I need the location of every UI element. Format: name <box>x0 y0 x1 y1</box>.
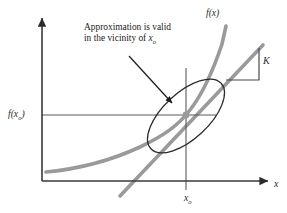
slope-label-k: K <box>263 55 270 67</box>
y-axis-value-label-f-x0: f(xo) <box>8 108 25 121</box>
annotation-text: Approximation is valid in the vicinity o… <box>84 22 171 45</box>
annotation-line-2-prefix: in the vicinity of <box>84 33 149 43</box>
curve-label-fx: f(x) <box>206 7 219 18</box>
x-axis-label: x <box>274 178 278 190</box>
operating-point-marker-icon <box>183 112 190 119</box>
linearization-figure: Approximation is valid in the vicinity o… <box>0 0 287 213</box>
annotation-leader-arrow-icon <box>129 56 172 103</box>
annotation-line-1: Approximation is valid <box>84 22 171 32</box>
x-axis-tick-label-x0: xo <box>184 192 192 205</box>
y-axis-value-prefix: f(x <box>8 108 18 119</box>
fx-curve <box>46 26 226 172</box>
annotation-line-2-subscript: o <box>153 38 156 45</box>
y-axis-value-close-paren: ) <box>21 108 24 119</box>
x-tick-subscript: o <box>188 198 191 205</box>
tangent-line <box>120 45 263 196</box>
